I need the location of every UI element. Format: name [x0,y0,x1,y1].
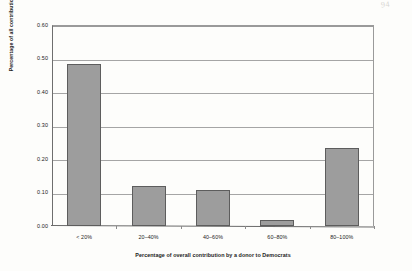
y-axis-tick-label: 0.40 [24,89,48,95]
x-axis-title: Percentage of overall contribution by a … [52,252,374,258]
x-axis-tick-label: 80–100% [310,234,374,240]
chart-page: 94 Percentage of all contributions 0.000… [0,0,412,271]
bar [132,186,166,226]
x-axis-tick-label: 40–60% [181,234,245,240]
x-axis-tick-mark [245,226,246,229]
y-axis-tick-label: 0.10 [24,189,48,195]
gridline [53,26,373,27]
x-axis-tick-mark [374,226,375,229]
y-axis-tick-label: 0.20 [24,156,48,162]
y-axis-title: Percentage of all contributions [8,0,18,88]
x-axis-tick-label: < 20% [52,234,116,240]
x-axis-tick-mark [310,226,311,229]
bar [67,64,101,226]
x-axis-tick-label: 60–80% [245,234,309,240]
x-axis-tick-label: 20–40% [116,234,180,240]
y-axis-tick-label: 0.60 [24,22,48,28]
x-axis-tick-mark [181,226,182,229]
y-axis-tick-label: 0.00 [24,223,48,229]
bar [260,220,294,226]
y-axis-tick-labels: 0.000.100.200.300.400.500.60 [20,0,48,271]
gridline [53,60,373,61]
bar [325,148,359,226]
x-axis-tick-mark [116,226,117,229]
y-axis-tick-label: 0.30 [24,122,48,128]
page-number-artifact: 94 [381,0,391,9]
y-axis-tick-label: 0.50 [24,55,48,61]
bar [196,190,230,226]
